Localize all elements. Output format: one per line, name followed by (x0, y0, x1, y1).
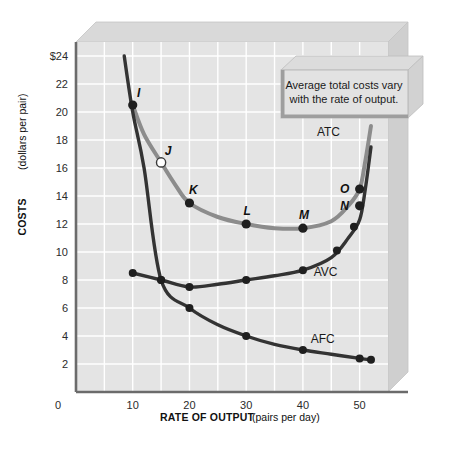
x-axis-title-units: (pairs per day) (252, 411, 320, 423)
y-tick-label: 12 (56, 218, 68, 230)
data-point-j (156, 158, 165, 167)
x-tick-label: 10 (127, 399, 139, 411)
curve-label-afc: AFC (311, 332, 335, 346)
y-tick-label: 20 (56, 106, 68, 118)
y-tick-label: $24 (50, 50, 68, 62)
data-point-k (185, 198, 194, 207)
callout-box: Average total costs vary with the rate o… (281, 56, 423, 118)
callout-shadow-bottom (281, 115, 408, 119)
data-point-l (242, 219, 251, 228)
callout-shadow-left (281, 70, 285, 118)
data-point-m (298, 224, 307, 233)
callout-bevel-top (281, 56, 423, 70)
y-tick-label: 2 (62, 358, 68, 370)
plot-bevel-top (76, 22, 408, 42)
y-axis-title-units: (dollars per pair) (16, 94, 28, 170)
point-label-l: L (244, 204, 251, 218)
x-axis-title: RATE OF OUTPUT (pairs per day) (160, 411, 320, 423)
y-axis-title-bold: COSTS (16, 198, 28, 235)
data-point-marker (242, 332, 250, 340)
data-point-n (355, 201, 364, 210)
y-tick-label: 16 (56, 162, 68, 174)
y-tick-label: 8 (62, 274, 68, 286)
data-point-marker (356, 354, 364, 362)
y-tick-label: 4 (62, 330, 68, 342)
point-label-m: M (299, 208, 310, 222)
point-label-j: J (165, 144, 172, 158)
data-point-marker (333, 247, 341, 255)
callout-line-2: with the rate of output. (289, 93, 399, 105)
y-axis-title: COSTS (dollars per pair) (16, 94, 28, 236)
x-tick-label: 50 (354, 399, 366, 411)
y-tick-label: 6 (62, 302, 68, 314)
data-point-marker (185, 304, 193, 312)
cost-curves-figure: IJKLMNO ATCAVCAFC 246810121416182022$24 … (0, 0, 450, 453)
y-tick-label: 22 (56, 78, 68, 90)
point-label-n: N (340, 199, 349, 213)
data-point-marker (185, 283, 193, 291)
data-point-marker (157, 276, 165, 284)
y-axis-tick-labels: 246810121416182022$24 (50, 50, 68, 370)
curve-label-avc: AVC (314, 265, 338, 279)
x-tick-label: 20 (183, 399, 195, 411)
data-point-marker (299, 266, 307, 274)
data-point-o (355, 184, 364, 193)
point-label-k: K (189, 183, 199, 197)
x-axis-title-bold: RATE OF OUTPUT (160, 411, 255, 423)
chart-canvas: IJKLMNO ATCAVCAFC 246810121416182022$24 … (0, 0, 450, 453)
y-tick-label: 10 (56, 246, 68, 258)
x-tick-label: 0 (55, 399, 61, 411)
y-tick-label: 18 (56, 134, 68, 146)
curve-label-atc: ATC (317, 125, 340, 139)
data-point-marker (367, 356, 375, 364)
data-point-marker (299, 346, 307, 354)
data-point-marker (129, 269, 137, 277)
data-point-i (128, 100, 137, 109)
x-axis-tick-labels: 01020304050 (55, 399, 366, 411)
y-tick-label: 14 (56, 190, 68, 202)
point-label-o: O (340, 182, 350, 196)
data-point-marker (242, 276, 250, 284)
x-tick-label: 40 (297, 399, 309, 411)
data-point-marker (350, 223, 358, 231)
callout-line-1: Average total costs vary (285, 79, 403, 91)
x-tick-label: 30 (240, 399, 252, 411)
